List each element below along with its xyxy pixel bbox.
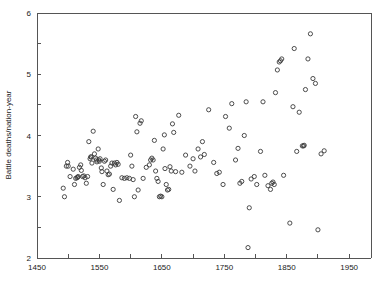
data-point xyxy=(129,153,133,157)
data-point xyxy=(242,133,246,137)
x-tick-label: 1450 xyxy=(28,263,46,272)
data-point xyxy=(291,105,295,109)
x-tick-label: 1550 xyxy=(91,263,109,272)
data-point xyxy=(162,133,166,137)
x-tick-label: 1750 xyxy=(215,263,233,272)
data-point xyxy=(306,57,310,61)
x-tick-label: 1850 xyxy=(278,263,296,272)
data-point xyxy=(246,245,250,249)
data-point xyxy=(90,161,94,165)
data-point xyxy=(61,186,65,190)
data-point xyxy=(244,100,248,104)
axes: 14501550165017501850195023456 xyxy=(27,9,371,272)
data-point xyxy=(131,178,135,182)
data-point xyxy=(207,108,211,112)
data-point xyxy=(154,169,158,173)
data-point xyxy=(134,114,138,118)
y-tick-label: 2 xyxy=(27,254,32,263)
data-point xyxy=(62,195,66,199)
data-point xyxy=(161,147,165,151)
data-point xyxy=(164,182,168,186)
data-point xyxy=(227,126,231,130)
data-point xyxy=(196,147,200,151)
data-point xyxy=(221,182,225,186)
data-point xyxy=(111,187,115,191)
data-point xyxy=(268,187,272,191)
data-point xyxy=(313,81,317,85)
data-point xyxy=(130,164,134,168)
y-tick-label: 3 xyxy=(27,193,32,202)
data-point xyxy=(169,169,173,173)
data-point xyxy=(282,173,286,177)
data-point xyxy=(117,198,121,202)
data-point xyxy=(188,164,192,168)
data-point xyxy=(308,32,312,36)
data-point xyxy=(92,152,96,156)
data-point xyxy=(132,195,136,199)
data-point xyxy=(275,68,279,72)
data-point xyxy=(233,158,237,162)
data-point xyxy=(295,149,299,153)
data-point xyxy=(136,188,140,192)
data-point xyxy=(258,149,262,153)
data-point xyxy=(252,174,256,178)
data-point xyxy=(311,76,315,80)
data-point xyxy=(236,146,240,150)
data-point xyxy=(84,181,88,185)
data-point xyxy=(303,87,307,91)
data-point xyxy=(183,153,187,157)
data-point xyxy=(255,182,259,186)
data-point xyxy=(152,138,156,142)
data-point xyxy=(141,176,145,180)
data-point xyxy=(72,182,76,186)
data-point xyxy=(322,149,326,153)
plot-canvas: 14501550165017501850195023456 Battle dea… xyxy=(0,0,388,289)
data-point xyxy=(261,100,265,104)
data-point xyxy=(163,166,167,170)
scatter-plot-figure: 14501550165017501850195023456 Battle dea… xyxy=(0,0,388,289)
data-point xyxy=(288,221,292,225)
data-point xyxy=(191,157,195,161)
data-point xyxy=(87,140,91,144)
data-point xyxy=(316,228,320,232)
y-tick-label: 5 xyxy=(27,70,32,79)
data-point xyxy=(172,130,176,134)
data-point xyxy=(292,46,296,50)
data-point xyxy=(202,152,206,156)
x-tick-label: 1650 xyxy=(153,263,171,272)
data-point xyxy=(177,113,181,117)
data-point xyxy=(170,122,174,126)
data-point xyxy=(193,169,197,173)
data-point xyxy=(230,102,234,106)
data-point xyxy=(247,206,251,210)
data-point xyxy=(180,170,184,174)
x-tick-label: 1950 xyxy=(340,263,358,272)
data-point xyxy=(297,110,301,114)
data-point xyxy=(200,140,204,144)
data-point xyxy=(147,163,151,167)
data-point xyxy=(273,91,277,95)
data-point xyxy=(135,130,139,134)
y-axis-label: Battle deaths/nation-year xyxy=(4,90,13,179)
data-point xyxy=(101,182,105,186)
data-points xyxy=(61,32,326,250)
data-point xyxy=(71,167,75,171)
y-tick-label: 6 xyxy=(27,9,32,18)
data-point xyxy=(212,160,216,164)
y-tick-label: 4 xyxy=(27,132,32,141)
data-point xyxy=(223,114,227,118)
data-point xyxy=(173,170,177,174)
data-point xyxy=(96,147,100,151)
data-point xyxy=(91,129,95,133)
data-point xyxy=(263,173,267,177)
data-point xyxy=(168,165,172,169)
data-point xyxy=(68,174,72,178)
